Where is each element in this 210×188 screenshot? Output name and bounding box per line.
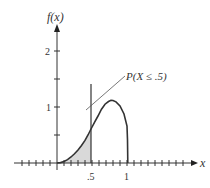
x-tick-label-half: .5 <box>87 171 95 182</box>
density-curve <box>57 100 128 163</box>
x-axis-label: x <box>199 156 206 170</box>
density-plot: f(x) 2 1 .5 1 x P(X ≤ .5) <box>0 0 210 188</box>
y-tick-label-2: 2 <box>45 46 50 57</box>
x-axis-arrow-icon <box>191 160 198 166</box>
x-tick-label-1: 1 <box>124 171 129 182</box>
y-axis-label: f(x) <box>47 10 64 24</box>
shaded-probability-region <box>57 129 91 163</box>
probability-annotation: P(X ≤ .5) <box>125 70 167 83</box>
y-tick-label-1: 1 <box>46 102 51 113</box>
y-axis-arrow-icon <box>54 24 60 32</box>
